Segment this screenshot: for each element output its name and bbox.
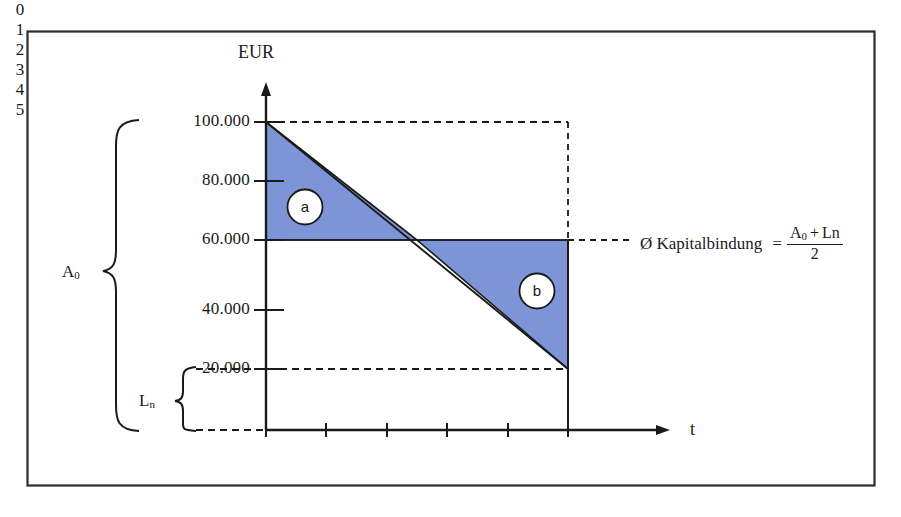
x-axis-arrowhead: [656, 425, 670, 435]
formula-prefix: Ø Kapitalbindung: [640, 234, 762, 254]
formula-denominator: 2: [787, 244, 843, 263]
brace-label-ln-sub: n: [149, 398, 155, 410]
y-tick-label-60000: 60.000: [150, 229, 250, 249]
brace-label-ln: Ln: [139, 391, 155, 411]
brace-label-a0: A0: [62, 262, 80, 282]
average-capital-formula: Ø Kapitalbindung = A0+Ln 2: [640, 225, 843, 262]
y-axis-title: EUR: [238, 42, 274, 63]
y-tick-label-20000: 20.000: [150, 358, 250, 378]
brace-label-a0-base: A: [62, 262, 74, 281]
region-label-a: a: [290, 198, 320, 215]
y-tick-label-40000: 40.000: [150, 299, 250, 319]
formula-numerator-plus: +: [810, 224, 819, 241]
brace-label-a0-sub: 0: [74, 269, 80, 281]
y-tick-label-80000: 80.000: [150, 170, 250, 190]
formula-numerator-a0-base: A: [790, 224, 802, 241]
y-axis-arrowhead: [261, 82, 271, 96]
formula-equals-sign: =: [772, 234, 782, 254]
formula-numerator-ln: Ln: [822, 224, 840, 241]
x-axis-title: t: [690, 419, 695, 440]
region-label-b: b: [522, 282, 552, 299]
formula-numerator: A0+Ln: [787, 225, 843, 244]
brace-label-ln-base: L: [139, 391, 149, 410]
brace-a0: [103, 120, 139, 431]
formula-numerator-a0-sub: 0: [801, 230, 807, 242]
y-tick-label-100000: 100.000: [150, 111, 250, 131]
formula-fraction: A0+Ln 2: [787, 225, 843, 262]
figure-root: EUR t 100.000 80.000 60.000 40.000 20.00…: [0, 0, 901, 517]
